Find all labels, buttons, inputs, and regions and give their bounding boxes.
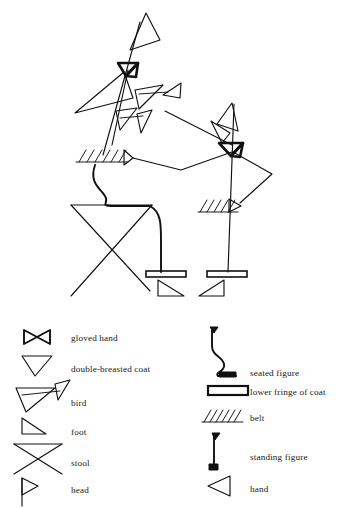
legend-row-gloved-hand: gloved hand — [24, 330, 118, 344]
hand-right — [211, 121, 230, 143]
bird-icon — [16, 380, 70, 412]
bird-upper — [135, 83, 181, 109]
legend-label-belt: belt — [250, 413, 265, 423]
legend-row-bird: bird — [16, 380, 87, 412]
figure-svg — [0, 0, 352, 318]
figure-drawing — [0, 0, 352, 318]
belt-icon — [202, 410, 243, 422]
legend-label-hand: hand — [250, 484, 269, 494]
legend-row-foot: foot — [22, 418, 87, 437]
torso-connector — [133, 152, 232, 170]
legend-row-double-breasted-coat: double-breasted coat — [22, 356, 151, 376]
legend-svg: gloved hand double-breasted coat bird — [0, 318, 352, 507]
legend-label-bird: bird — [71, 398, 87, 408]
foot-right — [199, 280, 224, 296]
page-root: gloved hand double-breasted coat bird — [0, 0, 352, 507]
legend: gloved hand double-breasted coat bird — [0, 318, 352, 507]
hand-left — [124, 150, 133, 165]
legend-row-belt: belt — [202, 410, 265, 423]
legend-label-gloved-hand: gloved hand — [71, 333, 118, 343]
seated-figure — [93, 165, 150, 206]
head-icon — [22, 478, 38, 506]
head-left — [130, 13, 160, 50]
seated-figure-icon — [210, 327, 236, 377]
lower-fringe-right — [207, 271, 247, 277]
legend-label-foot: foot — [71, 427, 87, 437]
hand-icon — [208, 476, 230, 496]
lower-fringe-left — [146, 271, 186, 277]
leg-left — [150, 206, 161, 272]
legend-label-standing-figure: standing figure — [250, 452, 308, 462]
stool-icon — [14, 444, 62, 474]
legend-row-standing-figure: standing figure — [209, 433, 308, 470]
legend-row-hand: hand — [208, 476, 269, 496]
double-breasted-coat-right — [233, 152, 272, 203]
lower-fringe-of-coat-icon — [208, 386, 248, 395]
legend-row-lower-fringe: lower fringe of coat — [208, 386, 326, 397]
standing-figure-icon — [209, 433, 220, 470]
bird-lower — [116, 108, 152, 133]
belt-left — [76, 150, 128, 162]
foot-left — [158, 280, 184, 296]
legend-label-head: head — [71, 485, 89, 495]
legend-row-stool: stool — [14, 444, 90, 474]
double-breasted-coat-icon — [22, 356, 52, 376]
coat-left-stroke-b — [112, 70, 128, 145]
stool — [71, 205, 152, 296]
legend-row-head: head — [22, 478, 89, 506]
legend-label-lower-fringe: lower fringe of coat — [250, 387, 326, 397]
legend-label-stool: stool — [71, 458, 90, 468]
gloved-hand-icon — [24, 330, 50, 344]
coat-left-long-stroke — [103, 22, 140, 155]
legend-row-seated-figure: seated figure — [210, 327, 299, 378]
legend-label-double-breasted-coat: double-breasted coat — [71, 364, 151, 374]
legend-label-seated-figure: seated figure — [250, 368, 299, 378]
foot-icon — [22, 418, 46, 434]
